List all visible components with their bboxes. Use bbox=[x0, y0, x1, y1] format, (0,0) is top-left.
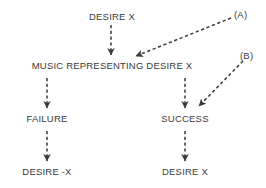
edges-group bbox=[47, 18, 243, 161]
edge-b-to-success bbox=[199, 61, 243, 106]
edge-layer bbox=[0, 0, 266, 188]
node-desire-x-top: DESIRE X bbox=[89, 11, 135, 22]
annotation-ref-b: (B) bbox=[240, 50, 253, 61]
flowchart-diagram: DESIRE X MUSIC REPRESENTING DESIRE X FAI… bbox=[0, 0, 266, 188]
annotation-ref-a: (A) bbox=[234, 9, 247, 20]
edge-a-to-music bbox=[136, 18, 231, 56]
node-desire-x-bottom: DESIRE X bbox=[162, 166, 208, 177]
node-desire-negative-x: DESIRE -X bbox=[22, 166, 71, 177]
node-failure: FAILURE bbox=[27, 113, 68, 124]
node-music-representing-desire-x: MUSIC REPRESENTING DESIRE X bbox=[32, 60, 193, 71]
node-success: SUCCESS bbox=[161, 113, 208, 124]
